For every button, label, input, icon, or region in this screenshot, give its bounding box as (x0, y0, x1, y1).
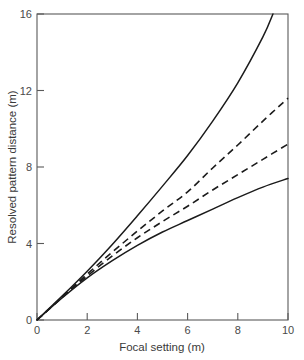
x-axis-title: Focal setting (m) (119, 341, 205, 353)
line-chart: 0246810 0481216 Focal setting (m) Resolv… (0, 0, 304, 360)
x-tick-label-3: 6 (185, 324, 191, 336)
x-tick-label-0: 0 (34, 324, 40, 336)
curve-lower-solid (37, 178, 288, 320)
y-axis-tick-labels: 0481216 (20, 8, 32, 326)
x-tick-label-2: 4 (134, 324, 140, 336)
x-axis-tick-labels: 0246810 (34, 324, 294, 336)
x-tick-label-1: 2 (84, 324, 90, 336)
y-tick-label-1: 4 (26, 238, 32, 250)
y-tick-label-4: 16 (20, 8, 32, 20)
chart-figure: 0246810 0481216 Focal setting (m) Resolv… (0, 0, 304, 360)
y-axis-ticks (37, 14, 44, 320)
data-curves (37, 14, 288, 320)
x-tick-label-4: 8 (235, 324, 241, 336)
y-tick-label-0: 0 (26, 314, 32, 326)
x-tick-label-5: 10 (282, 324, 294, 336)
y-tick-label-3: 12 (20, 85, 32, 97)
y-tick-label-2: 8 (26, 161, 32, 173)
y-axis-title: Resolved pattern distance (m) (6, 90, 18, 244)
x-axis-ticks (37, 313, 288, 320)
curve-upper-solid (37, 14, 273, 320)
